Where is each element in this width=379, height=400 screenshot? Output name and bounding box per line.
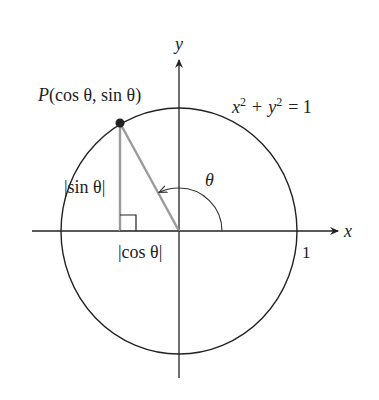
angle-arc [160,188,222,231]
point-name: P [37,85,49,105]
point-p [116,119,125,128]
unit-circle-diagram: y x 1 P(cos θ, sin θ) x2+y2= 1 θ |sin θ|… [0,0,379,400]
equation-eq: = 1 [288,97,312,117]
equation-y: y [266,97,276,117]
equation-exp-y: 2 [276,95,282,109]
theta-label: θ [205,170,214,190]
sin-label: |sin θ| [64,177,105,197]
right-angle-marker [120,215,136,231]
x-axis-label: x [343,221,352,241]
equation-x: x [231,97,240,117]
point-label: P(cos θ, sin θ) [37,85,141,106]
cos-label: |cos θ| [118,242,162,262]
circle-equation: x2+y2= 1 [231,95,312,117]
radius-one-label: 1 [302,243,311,262]
y-axis-label: y [173,34,183,54]
point-coords: (cos θ, sin θ) [49,85,141,106]
equation-plus: + [252,97,262,117]
equation-exp-x: 2 [240,95,246,109]
